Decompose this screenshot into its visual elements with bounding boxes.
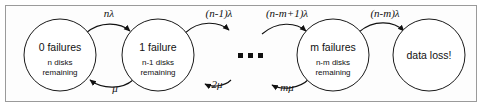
state-diagram: 0 failures n disks remaining 1 failure n… xyxy=(0,0,484,109)
failure-arrow-0-to-1 xyxy=(86,24,130,33)
state-sub-1-failure-line1: n-1 disks xyxy=(142,58,174,67)
rate-label-n-minus-1-lambda: (n-1)λ xyxy=(206,7,233,20)
figure-root: 0 failures n disks remaining 1 failure n… xyxy=(0,0,484,109)
state-circle-0-failures[interactable] xyxy=(24,19,96,91)
failure-arrow-m-to-data-loss xyxy=(359,23,404,32)
failure-arrow-1-to-ellipsis xyxy=(185,23,229,33)
state-sub-m-failures-line1: n-m disks xyxy=(316,58,350,67)
state-circle-1-failure[interactable] xyxy=(122,19,194,91)
state-sub-1-failure-line2: remaining xyxy=(140,68,175,77)
state-label-1-failure: 1 failure xyxy=(139,41,177,53)
failure-arrow-ellipsis-to-m xyxy=(262,24,306,34)
state-circle-m-failures[interactable] xyxy=(297,19,369,91)
state-label-0-failures: 0 failures xyxy=(39,41,82,53)
state-label-m-failures: m failures xyxy=(310,41,356,53)
rate-label-n-minus-m-plus-1-lambda: (n-m+1)λ xyxy=(266,7,308,20)
state-label-data-loss: data loss! xyxy=(407,49,452,61)
ellipsis-icon xyxy=(238,53,263,58)
state-sub-0-failures-line1: n disks xyxy=(48,58,73,67)
rate-label-n-lambda: nλ xyxy=(104,7,115,19)
state-sub-0-failures-line2: remaining xyxy=(42,68,77,77)
rate-label-2-mu: 2μ xyxy=(211,78,223,90)
state-sub-m-failures-line2: remaining xyxy=(315,68,350,77)
rate-label-n-minus-m-lambda: (n-m)λ xyxy=(370,7,399,20)
rate-label-mu: μ xyxy=(111,82,118,94)
rate-label-m-mu: mμ xyxy=(280,81,294,93)
